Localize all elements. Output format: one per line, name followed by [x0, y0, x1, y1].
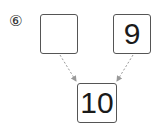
arrow-left-to-result	[60, 55, 76, 81]
blank-answer-box[interactable]	[40, 14, 78, 54]
arrow-right-to-result	[117, 55, 133, 81]
sum-box: 10	[77, 83, 117, 123]
addend-box: 9	[113, 14, 151, 54]
